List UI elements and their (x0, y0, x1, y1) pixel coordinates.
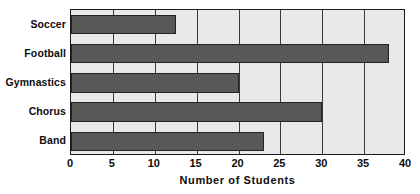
x-axis-tick-35: 35 (357, 157, 369, 169)
y-axis-label-soccer: Soccer (0, 18, 66, 30)
bars-group (71, 10, 404, 154)
bar-chart: SoccerFootballGymnasticsChorusBand 05101… (0, 0, 420, 194)
x-axis-tick-10: 10 (148, 157, 160, 169)
y-axis-label-band: Band (0, 134, 66, 146)
x-axis-tick-15: 15 (190, 157, 202, 169)
y-axis-label-gymnastics: Gymnastics (0, 76, 66, 88)
x-axis-tick-30: 30 (315, 157, 327, 169)
bar-football (71, 44, 389, 63)
y-axis-category-labels: SoccerFootballGymnasticsChorusBand (0, 9, 66, 155)
x-axis-tick-20: 20 (231, 157, 243, 169)
x-axis-tick-labels: 0510152025303540 (0, 157, 420, 173)
y-axis-label-chorus: Chorus (0, 105, 66, 117)
x-axis-tick-25: 25 (273, 157, 285, 169)
y-axis-label-football: Football (0, 47, 66, 59)
x-axis-tick-5: 5 (109, 157, 115, 169)
bar-soccer (71, 15, 176, 34)
x-axis-tick-0: 0 (67, 157, 73, 169)
bar-chorus (71, 102, 322, 121)
x-axis-title: Number of Students (70, 174, 405, 186)
bar-gymnastics (71, 73, 239, 92)
bar-band (71, 132, 264, 151)
plot-area (70, 9, 405, 155)
x-axis-tick-40: 40 (399, 157, 411, 169)
